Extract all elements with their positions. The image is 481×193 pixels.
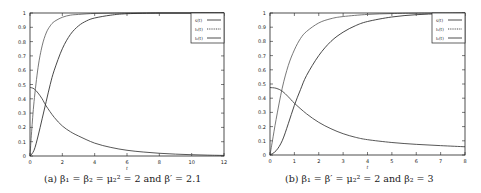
chart-b-ytick-label: 0.4 <box>258 95 266 101</box>
chart-a-ytick-label: 0 <box>23 153 26 159</box>
chart-a-xtick-label: 0 <box>28 159 31 165</box>
chart-b-xtick-label: 0 <box>268 158 271 164</box>
chart-a-ytick-label: 0.9 <box>18 24 26 30</box>
chart-b-ytick-label: 0.7 <box>258 53 266 59</box>
chart-b-xtick-label: 5 <box>390 158 393 164</box>
chart-a-xtick-label: 12 <box>221 159 227 165</box>
chart-b-ytick-label: 1 <box>263 10 266 16</box>
chart-panel-b: 00.10.20.30.40.50.60.70.80.91012345678ts… <box>240 0 481 193</box>
chart-b-xtick-label: 8 <box>463 158 466 164</box>
chart-b-xtick-label: 1 <box>293 158 296 164</box>
chart-b-series-s <box>270 88 465 147</box>
chart-b-xlabel: t <box>367 165 369 170</box>
chart-b-caption: (b) β₁ = β′ = μ₂² = 2 and β₂ = 3 <box>285 173 434 184</box>
chart-a-series-s <box>30 87 224 155</box>
chart-a-ytick-label: 0.3 <box>18 110 26 116</box>
chart-b-ytick-label: 0.5 <box>258 81 266 87</box>
chart-b-ytick-label: 0.2 <box>258 124 266 130</box>
chart-b-ytick-label: 0.3 <box>258 109 266 115</box>
chart-a-ytick-label: 0.8 <box>18 39 26 45</box>
chart-b-ytick-label: 0.1 <box>258 138 266 144</box>
chart-b-plot: 00.10.20.30.40.50.60.70.80.91012345678ts… <box>240 0 481 170</box>
chart-a-legend-label: I₁(t) <box>195 27 203 32</box>
chart-a-xtick-label: 4 <box>93 159 96 165</box>
chart-a-ytick-label: 0.1 <box>18 139 26 145</box>
chart-a-xtick-label: 8 <box>158 159 161 165</box>
chart-b-xtick-label: 7 <box>439 158 442 164</box>
chart-a-xtick-label: 6 <box>125 159 128 165</box>
chart-a-plot: 00.10.20.30.40.50.60.70.80.91024681012ts… <box>0 0 240 170</box>
chart-a-xtick-label: 2 <box>61 159 64 165</box>
chart-a-legend-label: s(t) <box>195 18 202 23</box>
chart-b-xtick-label: 6 <box>415 158 418 164</box>
chart-a-ytick-label: 0.7 <box>18 53 26 59</box>
chart-b-xtick-label: 3 <box>342 158 345 164</box>
chart-a-ytick-label: 0.4 <box>18 96 26 102</box>
chart-a-xtick-label: 10 <box>188 159 194 165</box>
chart-panel-a: 00.10.20.30.40.50.60.70.80.91024681012ts… <box>0 0 240 193</box>
chart-a-ytick-label: 0.2 <box>18 124 26 130</box>
chart-b-legend-label: I₁(t) <box>436 27 444 32</box>
chart-b-ytick-label: 0 <box>263 152 266 158</box>
chart-b-legend-label: s(t) <box>436 18 443 23</box>
chart-b-ytick-label: 0.8 <box>258 38 266 44</box>
chart-a-legend-label: I₂(t) <box>195 36 203 41</box>
chart-b-ytick-label: 0.6 <box>258 67 266 73</box>
chart-a-legend: s(t)I₁(t)I₂(t) <box>191 13 224 43</box>
chart-a-caption: (a) β₁ = β₂ = μ₂² = 2 and β′ = 2.1 <box>44 173 201 184</box>
chart-b-legend-label: I₂(t) <box>436 36 444 41</box>
chart-b-xtick-label: 2 <box>317 158 320 164</box>
chart-b-xtick-label: 4 <box>366 158 369 164</box>
chart-a-ytick-label: 0.6 <box>18 67 26 73</box>
chart-b-legend: s(t)I₁(t)I₂(t) <box>432 13 465 43</box>
chart-a-ytick-label: 0.5 <box>18 82 26 88</box>
chart-b-ytick-label: 0.9 <box>258 24 266 30</box>
chart-a-ytick-label: 1 <box>23 10 26 16</box>
chart-a-xlabel: t <box>126 166 128 170</box>
